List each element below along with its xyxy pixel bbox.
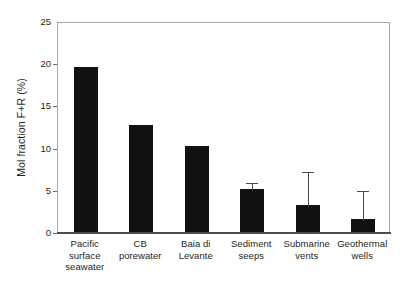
x-tick-label: CBporewater: [113, 238, 169, 261]
error-bar-cap: [302, 172, 314, 173]
bar-chart-figure: Mol fraction F+R (%) 0510152025 Pacifics…: [0, 0, 410, 282]
y-tick-label: 15: [30, 101, 51, 111]
error-bar-line: [363, 191, 364, 221]
y-tick-label-text: 10: [30, 144, 51, 154]
error-bar-line: [252, 183, 253, 191]
bar: [240, 189, 264, 232]
y-tick-label-text: 25: [30, 17, 51, 27]
x-tick-label-line: Geothermal: [335, 238, 391, 250]
y-tick-label: 20: [30, 59, 51, 69]
y-tick-label: 5: [30, 186, 51, 196]
x-tick-label: Baia diLevante: [168, 238, 224, 261]
y-tick-label: 25: [30, 17, 51, 27]
y-tick-label-text: 5: [30, 186, 51, 196]
x-tick-label-line: vents: [279, 250, 335, 262]
x-tick-label: Sedimentseeps: [224, 238, 280, 261]
x-tick-label: Geothermalwells: [335, 238, 391, 261]
error-bar-cap: [246, 183, 258, 184]
x-tick-label-line: Submarine: [279, 238, 335, 250]
bar: [296, 205, 320, 232]
x-tick-label: Pacificsurfaceseawater: [57, 238, 113, 273]
x-tick-label-line: CB: [113, 238, 169, 250]
x-tick-label-line: seawater: [57, 261, 113, 273]
y-tick-label: 0: [30, 228, 51, 238]
x-tick-label-line: porewater: [113, 250, 169, 262]
y-tick-label-text: 15: [30, 101, 51, 111]
x-axis-line: [57, 232, 391, 234]
y-tick-label-text: 20: [30, 59, 51, 69]
x-tick-label-line: surface: [57, 250, 113, 262]
bar: [74, 67, 98, 232]
bar: [129, 125, 153, 232]
x-tick-label-line: Baia di: [168, 238, 224, 250]
y-axis-title: Mol fraction F+R (%): [14, 22, 28, 233]
x-tick-label-line: Levante: [168, 250, 224, 262]
error-bar-line: [308, 172, 309, 207]
y-tick-label: 10: [30, 144, 51, 154]
x-tick-label-line: Sediment: [224, 238, 280, 250]
x-tick-label-line: wells: [335, 250, 391, 262]
x-tick-label: Submarinevents: [279, 238, 335, 261]
plot-area: [57, 22, 390, 233]
bar: [185, 146, 209, 232]
y-tick-label-text: 0: [30, 228, 51, 238]
error-bar-cap: [357, 191, 369, 192]
x-tick-label-line: seeps: [224, 250, 280, 262]
x-tick-label-line: Pacific: [57, 238, 113, 250]
